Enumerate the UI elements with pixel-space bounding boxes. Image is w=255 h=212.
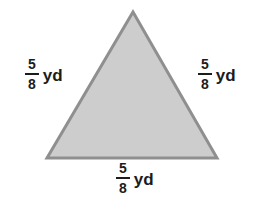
fraction-bottom-numerator: 5 bbox=[116, 161, 130, 179]
side-label-bottom: 5 8 yd bbox=[116, 161, 154, 195]
fraction-left-numerator: 5 bbox=[25, 57, 39, 75]
fraction-left-denominator: 8 bbox=[28, 75, 36, 91]
side-label-right: 5 8 yd bbox=[198, 57, 236, 91]
fraction-bottom: 5 8 bbox=[116, 161, 130, 195]
unit-right: yd bbox=[216, 65, 236, 84]
triangle-shape bbox=[47, 12, 217, 158]
fraction-bottom-denominator: 8 bbox=[119, 179, 127, 195]
fraction-right-numerator: 5 bbox=[198, 57, 212, 75]
fraction-left: 5 8 bbox=[25, 57, 39, 91]
fraction-right: 5 8 bbox=[198, 57, 212, 91]
unit-left: yd bbox=[43, 65, 63, 84]
fraction-right-denominator: 8 bbox=[201, 75, 209, 91]
unit-bottom: yd bbox=[134, 169, 154, 188]
figure-canvas: 5 8 yd 5 8 yd 5 8 yd bbox=[0, 0, 255, 212]
side-label-left: 5 8 yd bbox=[25, 57, 63, 91]
